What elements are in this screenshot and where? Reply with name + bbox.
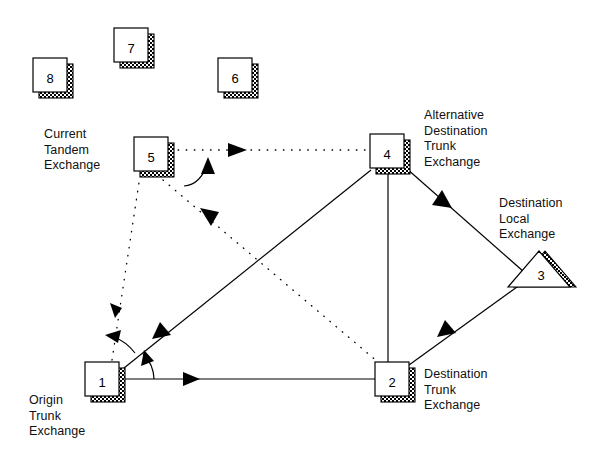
- arrowhead-2-to-3: [437, 320, 456, 337]
- node-1[interactable]: 1: [85, 362, 125, 402]
- arrowhead-5-to-2: [200, 208, 219, 226]
- node-3-label: 3: [537, 268, 544, 283]
- solid-link-arrowheads: [152, 190, 456, 386]
- link-2-to-3: [409, 279, 528, 365]
- diagram-canvas: 8 7 6 5 4 2: [0, 0, 604, 465]
- node-7-label: 7: [127, 41, 134, 56]
- arrowhead-arc-node-5: [201, 157, 215, 174]
- arrowhead-1-to-5: [110, 303, 122, 318]
- dotted-links: [112, 150, 378, 362]
- caption-destination-local-exchange: Destination Local Exchange: [499, 196, 563, 243]
- solid-links: [119, 168, 528, 379]
- arrowhead-arc-node-1-dotted: [105, 330, 121, 343]
- node-3[interactable]: 3: [508, 251, 576, 287]
- link-1-to-4: [119, 170, 371, 372]
- node-2[interactable]: 2: [375, 362, 415, 402]
- arrowhead-1-to-4: [152, 322, 171, 339]
- caption-current-tandem-exchange: Current Tandem Exchange: [44, 127, 100, 174]
- node-4-label: 4: [383, 147, 390, 162]
- node-6-label: 6: [231, 71, 238, 86]
- node-5[interactable]: 5: [134, 137, 174, 177]
- node-4[interactable]: 4: [370, 134, 410, 174]
- node-1-label: 1: [98, 375, 105, 390]
- node-2-label: 2: [388, 375, 395, 390]
- node-8[interactable]: 8: [33, 58, 73, 98]
- angle-arcs: [114, 164, 207, 379]
- arrowhead-4-to-3: [432, 190, 452, 208]
- caption-destination-trunk-exchange: Destination Trunk Exchange: [424, 367, 488, 414]
- node-8-label: 8: [46, 71, 53, 86]
- link-5-to-2: [163, 180, 378, 362]
- arrowhead-5-to-4: [228, 143, 247, 157]
- arrowhead-1-to-2: [183, 372, 200, 386]
- arc-near-node-5: [184, 164, 207, 186]
- node-6[interactable]: 6: [218, 58, 258, 98]
- caption-origin-trunk-exchange: Origin Trunk Exchange: [29, 393, 85, 440]
- node-5-label: 5: [147, 150, 154, 165]
- dotted-link-arrowheads: [110, 143, 247, 318]
- caption-alternative-destination-trunk-exchange: Alternative Destination Trunk Exchange: [424, 108, 488, 170]
- node-7[interactable]: 7: [114, 28, 154, 68]
